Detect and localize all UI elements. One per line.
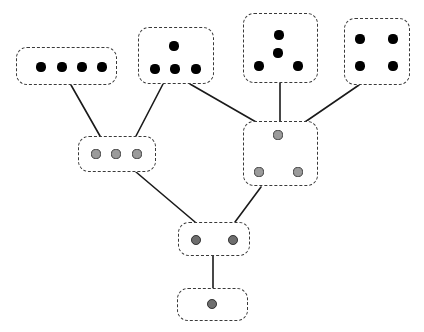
dot-n4-1 <box>355 34 364 43</box>
dot-n2-4 <box>191 64 200 73</box>
node-four-dots-square[interactable] <box>344 18 410 85</box>
dot-n1-4 <box>97 62 106 71</box>
dot-n4-2 <box>388 34 397 43</box>
dot-n1-1 <box>36 62 45 71</box>
edge-n5-n7 <box>136 172 195 222</box>
dot-n5-2 <box>111 149 120 158</box>
dot-n3-1 <box>274 30 283 39</box>
dot-n6-3 <box>293 167 302 176</box>
dot-n7-2 <box>228 235 238 245</box>
dot-n7-1 <box>191 235 201 245</box>
dot-n5-3 <box>132 149 141 158</box>
dot-n3-2 <box>273 48 282 57</box>
dot-n2-2 <box>150 64 159 73</box>
dot-n1-3 <box>77 62 86 71</box>
edge-n2-n5 <box>136 84 163 136</box>
dot-n6-1 <box>273 130 282 139</box>
edge-n4-n6 <box>305 85 359 122</box>
diagram-canvas <box>0 0 424 332</box>
dot-n4-4 <box>388 61 397 70</box>
edge-n1-n5 <box>71 85 100 136</box>
dot-n3-4 <box>293 61 302 70</box>
node-four-dots-pyramid[interactable] <box>138 27 214 84</box>
edge-n6-n7 <box>235 187 261 222</box>
dot-n5-1 <box>91 149 100 158</box>
dot-n2-1 <box>169 41 178 50</box>
dot-n2-3 <box>170 64 179 73</box>
dot-n8-1 <box>207 299 217 309</box>
dot-n4-3 <box>355 61 364 70</box>
dot-n3-3 <box>254 61 263 70</box>
node-two-dots-row[interactable] <box>178 222 250 256</box>
dot-n1-2 <box>57 62 66 71</box>
edge-n2-n6 <box>190 84 256 122</box>
dot-n6-2 <box>254 167 263 176</box>
